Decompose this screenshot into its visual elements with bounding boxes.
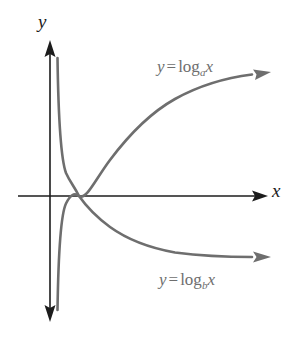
curve-log-b-log-text: log bbox=[180, 270, 202, 289]
curve-log-a-arrow-icon bbox=[253, 70, 271, 81]
curve-log-a-equals-symbol: = bbox=[165, 57, 179, 76]
curve-log-a-equation-label: y=logax bbox=[157, 58, 213, 78]
curve-log-b-y-symbol: y bbox=[159, 270, 167, 289]
plot-canvas bbox=[0, 0, 293, 344]
y-axis-label: y bbox=[38, 12, 46, 31]
curve-log-b-equation-label: y=logbx bbox=[159, 271, 215, 291]
curve-log-a bbox=[58, 75, 253, 311]
curve-log-b-argument-symbol: x bbox=[207, 270, 215, 289]
curve-log-b-equals-symbol: = bbox=[167, 270, 181, 289]
curve-log-b-arrow-icon bbox=[253, 252, 271, 263]
logarithm-graph-figure: y x y=logax y=logbx bbox=[0, 0, 293, 344]
curve-log-a-y-symbol: y bbox=[157, 57, 165, 76]
curve-log-a-argument-symbol: x bbox=[205, 57, 213, 76]
x-axis-label: x bbox=[272, 181, 280, 200]
curve-log-b bbox=[58, 58, 253, 257]
curve-log-a-log-text: log bbox=[178, 57, 200, 76]
